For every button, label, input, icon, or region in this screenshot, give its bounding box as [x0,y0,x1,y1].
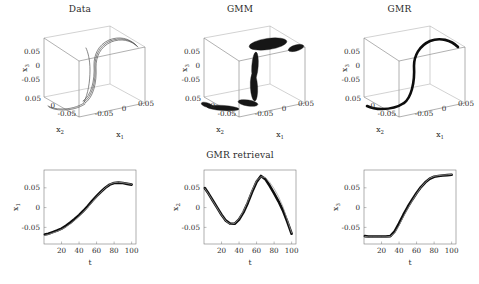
axis-label-x3: x3 [20,64,30,72]
y-tick-label: 0 [35,203,40,212]
x-tick-label: 60 [252,246,262,255]
plot3d-gmr: 0.05 0 -0.05 0.05 0 -0.05 -0.05 0 0.05 x… [320,4,479,144]
x-axis-label: t [88,258,91,267]
x-tick-label: 40 [234,246,244,255]
x-tick-label: 20 [217,246,227,255]
x-tick-label: 100 [445,246,459,255]
x-tick-label: 60 [92,246,102,255]
x-tick-label: 20 [377,246,387,255]
y-axis-label: x2 [171,203,181,211]
axis-label-x3: x3 [180,64,190,72]
gmm-gaussian-components [201,36,305,112]
y-tick-label: 0.05 [184,183,200,192]
series-x3-retrieved [365,175,452,237]
subplot-x2: 204060801000.050-0.05tx2 [171,170,299,267]
x-tick-label: 40 [394,246,404,255]
plot3d-gmm: 0.05 0 -0.05 0.05 0 -0.05 -0.05 0 0.05 x… [160,4,320,144]
subplot-x3: 204060801000.050-0.05tx3 [331,170,459,267]
tick-x1-005: 0.05 [298,99,314,108]
x-axis-label: t [248,258,251,267]
x-axis-label: t [408,258,411,267]
axis-label-x1: x1 [436,130,444,140]
tick-x1-0: 0 [442,104,447,113]
tick-x1-0: 0 [122,104,127,113]
plot-frame [44,170,136,244]
y-tick-label: 0 [195,203,200,212]
axis-label-x3: x3 [340,64,350,72]
plot-frame [364,170,456,244]
data-trajectory-curves [48,38,138,110]
y-tick-label: 0 [355,203,360,212]
x-tick-label: 100 [285,246,299,255]
tick-x1-0: 0 [282,104,287,113]
tick-x2-005: 0.05 [185,94,201,103]
series-x2-retrieved [205,176,292,234]
tick-x3-0: 0 [35,61,40,70]
plot3d-data: 0.05 0 -0.05 0.05 0 -0.05 -0.05 0 0.05 x… [0,4,160,144]
tick-x2-m005: -0.05 [378,109,397,118]
tick-x2-m005: -0.05 [218,109,237,118]
axis-ticks-gmm: 0.05 0 -0.05 0.05 0 -0.05 -0.05 0 0.05 x… [180,47,314,140]
tick-x2-005: 0.05 [345,94,361,103]
y-axis-label: x1 [11,203,21,211]
tick-x3-m005: -0.05 [342,75,361,84]
y-tick-label: -0.05 [342,223,361,232]
tick-x2-0: 0 [210,101,215,110]
gmr-trajectory [367,39,458,109]
axes3d-box-data [44,26,145,117]
axis-label-x2: x2 [56,125,64,135]
tick-x3-0: 0 [195,61,200,70]
x-tick-label: 20 [57,246,67,255]
tick-x3-m005: -0.05 [22,75,41,84]
y-tick-label: 0.05 [344,183,360,192]
axis-label-x2: x2 [216,125,224,135]
tick-x3-0: 0 [355,61,360,70]
panel-title-data: Data [0,4,160,14]
y-tick-label: -0.05 [22,223,41,232]
timeseries-plots: 204060801000.050-0.05tx1204060801000.050… [0,150,479,284]
axis-label-x2: x2 [376,125,384,135]
y-tick-label: 0.05 [24,183,40,192]
panel-title-gmr-retrieval: GMR retrieval [160,150,320,160]
tick-x3-005: 0.05 [344,47,360,56]
panel-title-gmm: GMM [160,4,320,14]
x-tick-label: 40 [74,246,84,255]
y-axis-label: x3 [331,203,341,211]
x-tick-label: 80 [430,246,440,255]
tick-x3-005: 0.05 [184,47,200,56]
subplot-x1: 204060801000.050-0.05tx1 [11,170,139,267]
tick-x1-m005: -0.05 [255,109,274,118]
tick-x3-005: 0.05 [24,47,40,56]
tick-x1-005: 0.05 [458,99,474,108]
tick-x2-m005: -0.05 [58,109,77,118]
panel-gmm: GMM 0.05 0 -0.05 0.0 [160,4,320,144]
axis-ticks-gmr: 0.05 0 -0.05 0.05 0 -0.05 -0.05 0 0.05 x… [340,47,474,140]
axis-label-x1: x1 [116,130,124,140]
axis-label-x1: x1 [276,130,284,140]
panel-data: Data 0.05 0 -0.05 0. [0,4,160,144]
tick-x2-0: 0 [50,101,55,110]
tick-x2-0: 0 [370,101,375,110]
x-tick-label: 80 [110,246,120,255]
x-tick-label: 100 [125,246,139,255]
x-tick-label: 60 [412,246,422,255]
tick-x1-005: 0.05 [138,99,154,108]
series-x1-retrieved [45,183,132,235]
tick-x1-m005: -0.05 [95,109,114,118]
tick-x1-m005: -0.05 [415,109,434,118]
x-tick-label: 80 [270,246,280,255]
series-x1-demonstrations [45,182,132,235]
panel-gmr-retrieval: GMR retrieval 204060801000.050-0.05tx120… [0,150,479,284]
tick-x2-005: 0.05 [25,94,41,103]
figure-root: Data 0.05 0 -0.05 0. [0,0,479,284]
tick-x3-m005: -0.05 [182,75,201,84]
panel-gmr: GMR 0.05 0 -0.05 0.05 0 -0.05 -0.05 [320,4,479,144]
panel-title-gmr: GMR [320,4,479,14]
y-tick-label: -0.05 [182,223,201,232]
